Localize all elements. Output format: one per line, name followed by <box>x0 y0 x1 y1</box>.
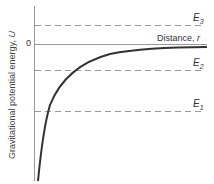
potential-energy-curve <box>38 47 207 181</box>
e3-label: E3 <box>193 12 204 25</box>
y-axis-label: Gravitational potential energy, U <box>7 15 17 175</box>
e1-label: E1 <box>193 98 204 111</box>
zero-tick-label: 0 <box>26 38 31 48</box>
x-axis-label: Distance, r <box>157 33 200 43</box>
e2-label: E2 <box>193 57 204 70</box>
potential-energy-plot <box>0 0 214 184</box>
